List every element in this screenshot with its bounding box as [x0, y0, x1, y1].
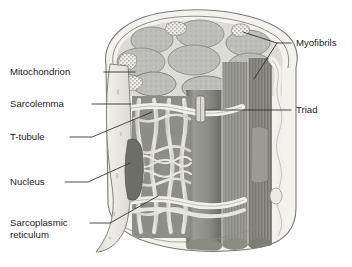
myofibril-cylinder-end [222, 238, 248, 250]
triad [196, 96, 205, 122]
myofibril-xsection [168, 45, 220, 75]
label-mitochondrion: Mitochondrion [10, 66, 70, 77]
label-triad: Triad [296, 104, 318, 115]
label-t-tubule: T-tubule [10, 131, 45, 142]
label-myofibrils: Myofibrils [296, 37, 337, 48]
label-sarcolemma: Sarcolemma [10, 98, 65, 109]
label-sarcoplasmic-reticulum-line2: reticulum [10, 229, 49, 240]
label-sarcoplasmic-reticulum-line1: Sarcoplasmic [10, 217, 68, 228]
nucleus [125, 139, 143, 200]
illustration [96, 10, 297, 253]
mitochondrion [165, 22, 186, 36]
muscle-fiber-diagram: Myofibrils Mitochondrion Sarcolemma Tria… [0, 0, 352, 267]
myofibril-cylinder-end [248, 238, 272, 250]
myofibril-segment [251, 127, 268, 183]
mitochondrion [231, 24, 249, 37]
label-nucleus: Nucleus [10, 176, 45, 187]
